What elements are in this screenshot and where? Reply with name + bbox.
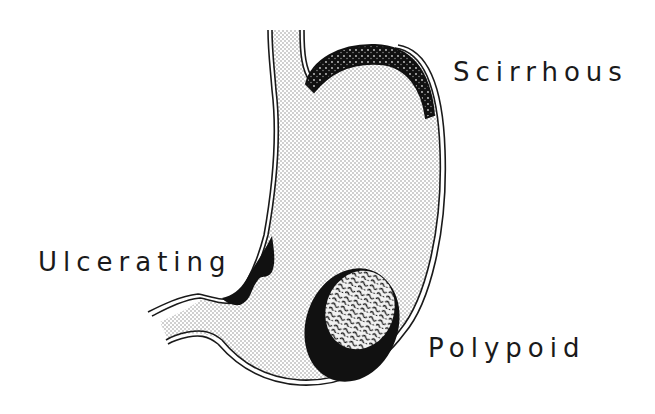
label-scirrhous: Scirrhous <box>453 57 628 87</box>
label-polypoid: Polypoid <box>428 333 585 363</box>
label-ulcerating: Ulcerating <box>38 247 232 277</box>
